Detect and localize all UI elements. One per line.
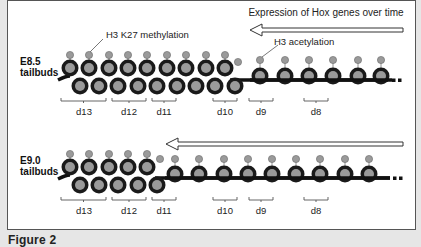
row-e90: E9.0 tailbuds bbox=[20, 138, 403, 216]
condensed-chromatin-2 bbox=[62, 150, 166, 193]
stage-sublabel-e85: tailbuds bbox=[20, 67, 59, 78]
arrow-label: Expression of Hox genes over time bbox=[248, 7, 404, 18]
time-arrow-1: Expression of Hox genes over time bbox=[248, 7, 404, 36]
open-chromatin-1 bbox=[250, 56, 392, 84]
segment-label: d9 bbox=[256, 106, 267, 117]
segment-label: d12 bbox=[121, 205, 137, 216]
condensed-chromatin-1 bbox=[62, 51, 244, 94]
time-arrow-2 bbox=[166, 138, 403, 150]
open-chromatin-2 bbox=[165, 155, 390, 182]
segment-brackets-1 bbox=[61, 98, 328, 103]
segment-label: d10 bbox=[217, 205, 233, 216]
figure-caption: Figure 2 bbox=[8, 234, 56, 246]
stage-sublabel-e90: tailbuds bbox=[20, 166, 59, 177]
segment-brackets-2 bbox=[61, 197, 328, 202]
segment-label: d12 bbox=[121, 106, 137, 117]
segment-label: d8 bbox=[311, 106, 322, 117]
methylation-label: H3 K27 methylation bbox=[106, 29, 189, 40]
row-e85: Expression of Hox genes over time E8.5 t… bbox=[20, 7, 404, 117]
acetylation-label: H3 acetylation bbox=[274, 36, 334, 47]
segment-label: d11 bbox=[156, 106, 171, 117]
segment-label: d9 bbox=[256, 205, 267, 216]
segment-label: d10 bbox=[217, 106, 233, 117]
stage-label-e85: E8.5 bbox=[20, 56, 41, 67]
segment-label: d13 bbox=[76, 205, 92, 216]
stage-label-e90: E9.0 bbox=[20, 155, 41, 166]
segment-label: d13 bbox=[76, 106, 92, 117]
segment-label: d11 bbox=[156, 205, 171, 216]
segment-label: d8 bbox=[311, 205, 322, 216]
